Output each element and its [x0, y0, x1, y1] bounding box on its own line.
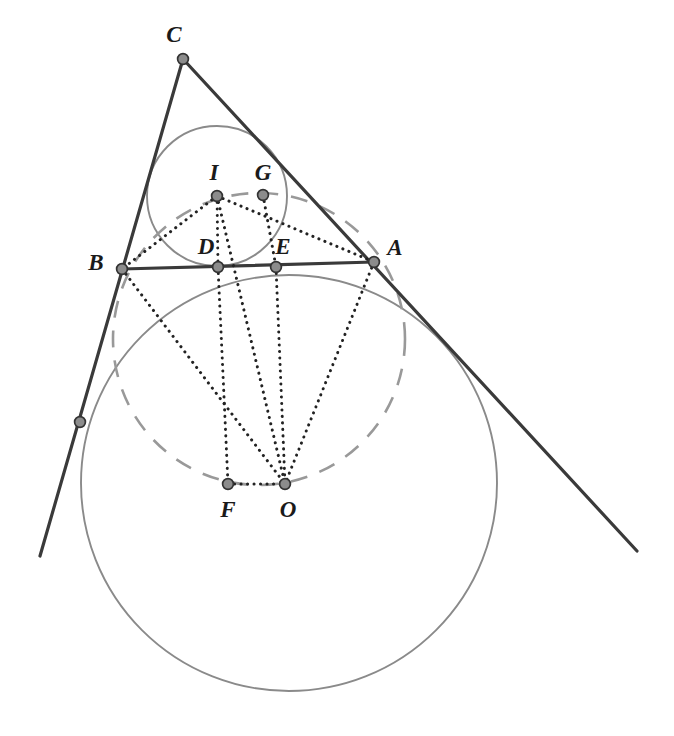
geometry-diagram — [0, 0, 674, 736]
point-marker-A — [369, 257, 380, 268]
point-label-A: A — [387, 236, 402, 259]
point-I — [212, 191, 223, 202]
dotted-lines-layer — [122, 195, 374, 484]
point-marker-C — [178, 54, 189, 65]
point-T — [75, 417, 86, 428]
point-label-E: E — [275, 235, 290, 258]
line-line-CA-extended — [183, 59, 637, 551]
dotted-I-to-A — [217, 196, 374, 262]
dotted-A-to-O — [285, 262, 374, 484]
point-marker-I — [212, 191, 223, 202]
dotted-I-to-D — [217, 196, 218, 267]
point-label-F: F — [220, 498, 235, 521]
point-marker-G — [258, 190, 269, 201]
circle-mid-circle — [113, 193, 405, 485]
dotted-D-to-F — [218, 267, 228, 484]
point-label-G: G — [255, 161, 272, 184]
line-line-CB-extended — [40, 59, 183, 556]
point-A — [369, 257, 380, 268]
point-label-C: C — [166, 23, 181, 46]
point-F — [223, 479, 234, 490]
dotted-G-to-E — [263, 195, 276, 267]
point-marker-D — [213, 262, 224, 273]
line-segment-BA — [122, 262, 374, 269]
points-layer — [75, 54, 380, 490]
point-marker-F — [223, 479, 234, 490]
dotted-B-to-O — [122, 269, 285, 484]
point-marker-E — [271, 262, 282, 273]
point-G — [258, 190, 269, 201]
point-marker-O — [280, 479, 291, 490]
point-E — [271, 262, 282, 273]
solid-lines-layer — [40, 59, 637, 556]
point-C — [178, 54, 189, 65]
point-marker-B — [117, 264, 128, 275]
point-label-I: I — [210, 161, 219, 184]
dotted-E-to-O — [276, 267, 285, 484]
point-label-O: O — [280, 498, 297, 521]
figure-canvas: CBAIGDEFO — [0, 0, 674, 736]
point-D — [213, 262, 224, 273]
point-label-B: B — [88, 251, 103, 274]
point-marker-T — [75, 417, 86, 428]
point-label-D: D — [198, 235, 215, 258]
point-O — [280, 479, 291, 490]
circles-layer — [81, 126, 497, 691]
point-B — [117, 264, 128, 275]
